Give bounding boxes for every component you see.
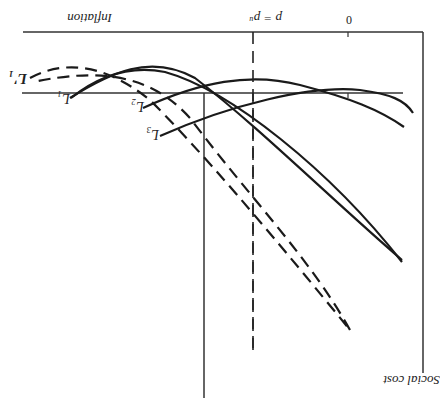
loss-function-diagram: Inflation p = pᵘ 0 Social cost L′₁ L₁ L₂… <box>0 0 440 398</box>
curve-L2-solid <box>142 136 403 272</box>
curve-L2 <box>140 140 404 272</box>
curve-L2 <box>143 79 404 127</box>
zero-label: 0 <box>346 13 352 27</box>
y-axis-label: Social cost <box>383 373 440 388</box>
x-axis-label: Inflation <box>67 11 113 26</box>
label-L1: L₁ <box>57 91 71 106</box>
curve-L1-prime <box>30 67 350 330</box>
curve-L2 <box>140 121 402 272</box>
vline-label: p = pᵘ <box>249 11 283 26</box>
label-L2: L₂ <box>131 99 145 114</box>
curve-L1 <box>71 70 402 262</box>
curve-L1-prime <box>33 75 350 330</box>
curve-L2-line <box>142 139 403 272</box>
label-L3: L₃ <box>146 127 160 142</box>
label-L1-prime: L′₁ <box>8 71 28 87</box>
diagram-canvas: Inflation p = pᵘ 0 Social cost L′₁ L₁ L₂… <box>0 0 440 398</box>
curve-L1 <box>70 67 402 260</box>
